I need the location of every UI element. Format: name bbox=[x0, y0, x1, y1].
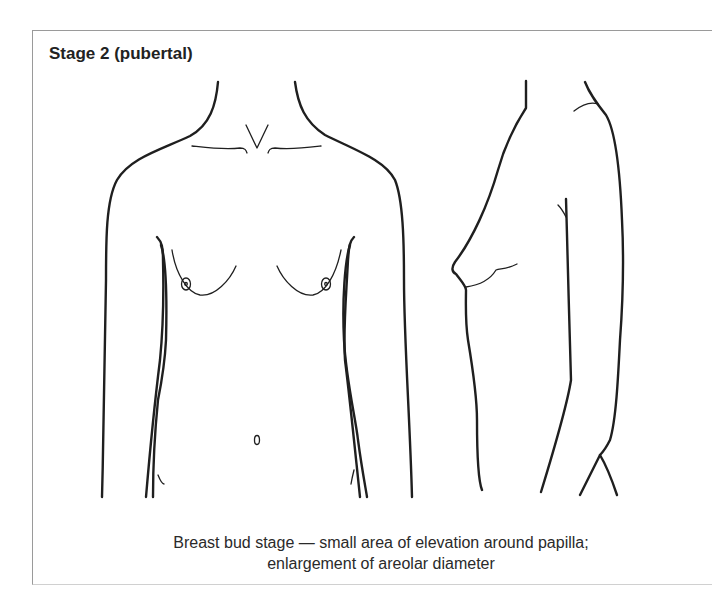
figure-caption: Breast bud stage — small area of elevati… bbox=[0, 532, 696, 574]
caption-line-1: Breast bud stage — small area of elevati… bbox=[66, 532, 696, 553]
front-view-figure bbox=[102, 82, 412, 497]
caption-line-2: enlargement of areolar diameter bbox=[66, 553, 696, 574]
side-view-figure bbox=[452, 81, 623, 495]
